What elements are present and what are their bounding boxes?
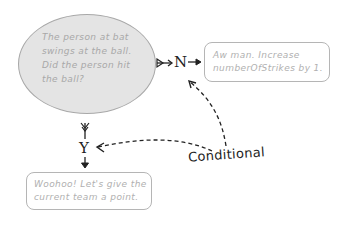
annotation-arrow-to-n xyxy=(189,81,226,146)
arrow-y-to-action xyxy=(82,157,89,168)
arrow-decision-to-n xyxy=(157,59,172,67)
flowchart-diagram: The person at bat swings at the ball. Di… xyxy=(0,0,340,230)
connector-arrows xyxy=(0,0,340,230)
arrow-n-to-action xyxy=(188,59,201,65)
annotation-arrow-to-y xyxy=(97,140,212,152)
arrow-decision-to-y xyxy=(81,123,89,139)
